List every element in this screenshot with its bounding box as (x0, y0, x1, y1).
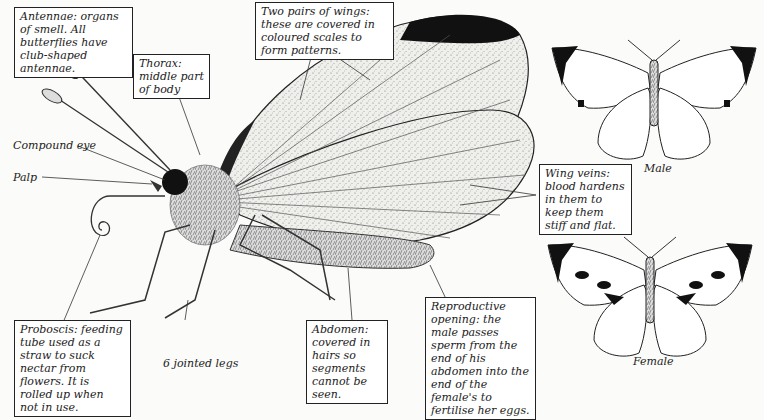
antennae-label: Antennae: organs of smell. All butterfli… (14, 7, 133, 78)
female-caption: Female (633, 355, 674, 368)
legs-label: 6 jointed legs (163, 357, 238, 370)
compound-eye-label: Compound eye (13, 139, 96, 152)
reproductive-opening-label: Reproductive opening: the male passes sp… (425, 297, 536, 420)
proboscis-label: Proboscis: feeding tube used as a straw … (14, 320, 131, 417)
male-butterfly (552, 40, 756, 159)
palp-label: Palp (13, 171, 37, 184)
thorax-label: Thorax: middle part of body (133, 54, 210, 99)
wings-label: Two pairs of wings: these are covered in… (255, 2, 394, 60)
female-butterfly (548, 237, 752, 356)
wing-veins-label: Wing veins: blood hardens in them to kee… (539, 164, 632, 235)
abdomen-label: Abdomen: covered in hairs so segments ca… (306, 320, 388, 404)
male-caption: Male (644, 162, 672, 175)
